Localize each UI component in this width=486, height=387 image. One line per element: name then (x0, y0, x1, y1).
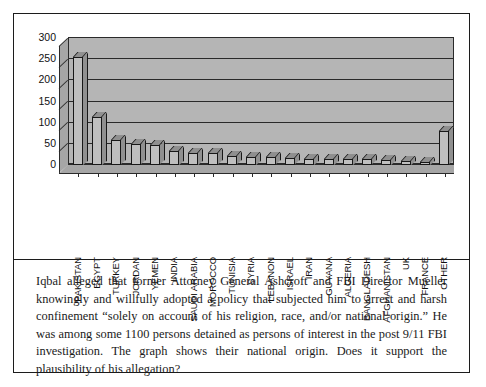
bar-front-face (324, 159, 334, 165)
bar-front-face (381, 160, 391, 165)
bar-side-face (83, 53, 88, 164)
bar (266, 157, 276, 164)
y-tick-label: 100 (26, 117, 56, 127)
caption-block: Iqbal alleged that former Attorney Gener… (14, 260, 469, 371)
bar (439, 131, 449, 164)
bar (401, 161, 411, 165)
bar (92, 117, 102, 165)
bar (362, 159, 372, 164)
bar (73, 57, 83, 165)
bar (208, 153, 218, 164)
y-axis: 050100150200250300 (24, 14, 56, 259)
bar-front-face (92, 117, 102, 165)
bar (111, 140, 121, 164)
x-axis-labels: PAKISTANEGYPTTURKEYJORDANYEMENINDIASAUDI… (59, 177, 459, 259)
bar-chart: 050100150200250300 PAKISTANEGYPTTURKEYJO… (14, 14, 469, 259)
y-tick-label: 200 (26, 74, 56, 84)
bar-front-face (401, 161, 411, 165)
bar-front-face (246, 157, 256, 165)
bar (227, 156, 237, 164)
bar (131, 144, 141, 164)
bar-front-face (73, 57, 83, 165)
bar-front-face (439, 131, 449, 164)
bar-front-face (266, 157, 276, 164)
bar (343, 159, 353, 165)
plot-area (59, 37, 454, 173)
bar-front-face (131, 144, 141, 164)
bar-side-face (449, 128, 454, 165)
caption-paragraph: Iqbal alleged that former Attorney Gener… (36, 273, 447, 379)
bar-side-face (102, 113, 107, 165)
bar (150, 145, 160, 164)
bar (285, 158, 295, 164)
bar-front-face (304, 159, 314, 165)
y-tick-label: 300 (26, 32, 56, 42)
bar-front-face (362, 159, 372, 164)
bar (381, 160, 391, 165)
bar (246, 157, 256, 165)
bar-side-face (160, 141, 165, 164)
bar-front-face (111, 140, 121, 164)
bar-side-face (141, 140, 146, 164)
y-tick-label: 150 (26, 96, 56, 106)
y-tick-label: 250 (26, 53, 56, 63)
y-tick-label: 50 (26, 138, 56, 148)
bar-front-face (227, 156, 237, 164)
bar (304, 159, 314, 165)
y-tick-label: 0 (26, 159, 56, 169)
bar-front-face (188, 153, 198, 165)
figure-page: 050100150200250300 PAKISTANEGYPTTURKEYJO… (0, 0, 486, 387)
bar-side-face (121, 137, 126, 165)
bar-front-face (208, 153, 218, 164)
bar-front-face (343, 159, 353, 165)
bar (169, 151, 179, 165)
bar-front-face (285, 158, 295, 164)
bar-front-face (150, 145, 160, 164)
bar-front-face (169, 151, 179, 165)
figure-frame: 050100150200250300 PAKISTANEGYPTTURKEYJO… (13, 13, 470, 373)
bar-series (68, 37, 454, 173)
bar (420, 162, 430, 165)
bar (188, 153, 198, 165)
bar (324, 159, 334, 165)
